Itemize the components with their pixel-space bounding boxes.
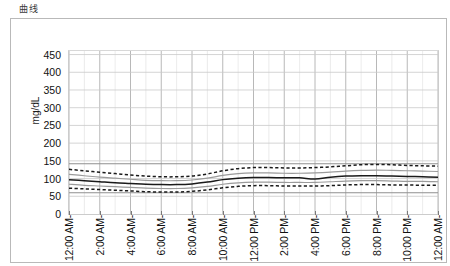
x-axis-tick-label: 4:00 PM- — [309, 215, 321, 256]
x-axis-tick-mark — [223, 211, 224, 215]
y-axis-tick-label: 50 — [31, 190, 61, 202]
x-axis-tick-label: 10:00 AM- — [217, 215, 229, 261]
y-axis-tick-label: 150 — [31, 155, 61, 167]
x-axis-tick-label: 2:00 PM- — [278, 215, 290, 256]
x-axis-tick-label: 8:00 PM- — [371, 215, 383, 256]
x-axis-tick-mark — [346, 211, 347, 215]
y-axis-tick-labels: 050100150200250300350400450 — [29, 19, 61, 262]
x-axis-tick-label: 8:00 AM- — [186, 215, 198, 255]
x-axis-tick-mark — [192, 211, 193, 215]
chart-panel: mg/dL 050100150200250300350400450 12:00 … — [10, 18, 447, 263]
y-axis-tick-label: 450 — [31, 49, 61, 61]
x-axis-tick-mark — [254, 211, 255, 215]
x-axis-tick-mark — [407, 211, 408, 215]
x-axis-tick-mark — [69, 211, 70, 215]
plot-area — [68, 50, 439, 215]
y-axis-tick-label: 350 — [31, 84, 61, 96]
x-axis-tick-label: 2:00 AM- — [94, 215, 106, 255]
x-axis-tick-label: 12:00 AM- — [432, 215, 444, 261]
x-axis-tick-label: 12:00 PM- — [248, 215, 260, 262]
glucose-curve-panel: 曲线 mg/dL 050100150200250300350400450 12:… — [0, 0, 450, 266]
x-axis-tick-labels: 12:00 AM-2:00 AM-4:00 AM-6:00 AM-8:00 AM… — [68, 215, 439, 266]
y-axis-tick-label: 0 — [31, 208, 61, 220]
x-axis-tick-mark — [100, 211, 101, 215]
y-axis-tick-label: 400 — [31, 66, 61, 78]
y-axis-tick-label: 200 — [31, 137, 61, 149]
x-axis-tick-label: 6:00 PM- — [340, 215, 352, 256]
x-axis-tick-label: 6:00 AM- — [155, 215, 167, 255]
y-axis-tick-label: 250 — [31, 119, 61, 131]
x-axis-tick-mark — [438, 211, 439, 215]
x-axis-tick-label: 12:00 AM- — [63, 215, 75, 261]
y-axis-tick-label: 100 — [31, 173, 61, 185]
x-axis-tick-mark — [377, 211, 378, 215]
page-title: 曲线 — [19, 2, 39, 15]
x-axis-tick-label: 4:00 AM- — [125, 215, 137, 255]
x-axis-tick-mark — [284, 211, 285, 215]
chart-svg — [69, 51, 438, 214]
x-axis-tick-mark — [315, 211, 316, 215]
x-axis-tick-label: 10:00 PM- — [401, 215, 413, 262]
x-axis-tick-mark — [131, 211, 132, 215]
y-axis-tick-label: 300 — [31, 102, 61, 114]
x-axis-tick-mark — [161, 211, 162, 215]
